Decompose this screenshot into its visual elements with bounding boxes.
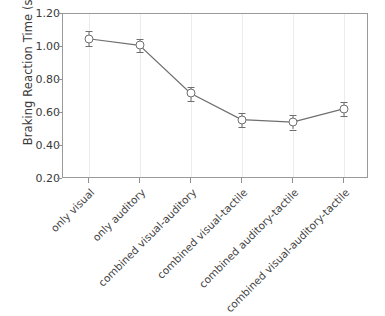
data-point-marker	[84, 34, 93, 43]
y-axis-tick-mark	[57, 178, 62, 179]
error-bar-cap	[238, 127, 245, 128]
x-axis-tick-mark	[343, 178, 344, 183]
data-point-marker	[135, 41, 144, 50]
error-bar-cap	[187, 101, 194, 102]
plot-area	[62, 13, 368, 178]
error-bar-cap	[136, 52, 143, 53]
x-axis-tick-mark	[190, 178, 191, 183]
x-axis-tick-mark	[241, 178, 242, 183]
data-point-marker	[339, 104, 348, 113]
error-bar-cap	[187, 87, 194, 88]
error-bar-cap	[289, 130, 296, 131]
data-point-marker	[288, 118, 297, 127]
y-axis-tick-label: 0.20	[20, 172, 60, 185]
x-axis-tick-mark	[139, 178, 140, 183]
y-axis-tick-label: 1.00	[20, 40, 60, 53]
error-bar-cap	[136, 39, 143, 40]
data-point-marker	[237, 115, 246, 124]
error-bar-cap	[238, 113, 245, 114]
error-bar-cap	[340, 102, 347, 103]
y-axis-tick-label: 0.60	[20, 106, 60, 119]
y-axis-tick-label: 0.40	[20, 139, 60, 152]
error-bar-cap	[340, 116, 347, 117]
error-bar-cap	[85, 31, 92, 32]
data-point-marker	[186, 89, 195, 98]
y-axis-tick-label: 0.80	[20, 73, 60, 86]
data-points-layer	[63, 14, 367, 177]
x-axis-tick-mark	[88, 178, 89, 183]
error-bar-cap	[85, 46, 92, 47]
y-axis-tick-label: 1.20	[20, 7, 60, 20]
error-bar-cap	[289, 115, 296, 116]
x-axis-tick-mark	[292, 178, 293, 183]
